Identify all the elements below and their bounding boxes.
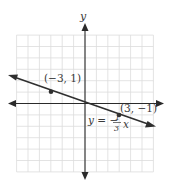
- equation-variable: x: [123, 118, 129, 130]
- equation-denominator: 3: [114, 124, 119, 133]
- line-right-arrow-icon: [145, 121, 156, 128]
- coordinate-graph: y (−3, 1) (3, −1) y = − 1 3 x: [0, 0, 169, 181]
- equation-numerator: 1: [115, 113, 120, 122]
- x-axis-left-arrow-icon: [8, 100, 16, 107]
- x-axis-right-arrow-icon: [156, 100, 164, 107]
- point2-label: (3, −1): [120, 102, 157, 114]
- y-axis-down-arrow-icon: [82, 172, 89, 180]
- y-axis-up-arrow-icon: [82, 23, 89, 31]
- point-neg3-1: [49, 90, 54, 95]
- point1-label: (−3, 1): [44, 72, 81, 84]
- y-axis-label: y: [79, 10, 87, 23]
- line-series: [8, 75, 156, 128]
